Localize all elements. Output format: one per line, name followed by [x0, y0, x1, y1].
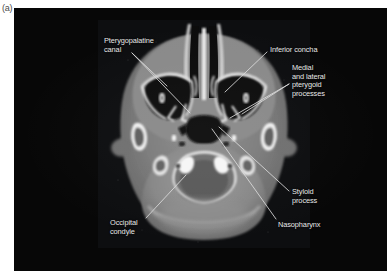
annotation-label-inferior-concha: Inferior concha — [270, 46, 317, 55]
annotation-label-styloid-process: Styloidprocess — [292, 188, 317, 205]
annotation-label-line: condyle — [110, 228, 137, 237]
annotation-label-nasopharynx: Nasopharynx — [278, 221, 320, 230]
annotation-label-medial-and-lateral-pterygoid-processes: Medialand lateralpterygoidprocesses — [292, 64, 325, 98]
annotation-label-line: canal — [104, 46, 154, 55]
annotation-label-line: processes — [292, 90, 325, 99]
annotation-label-occipital-condyle: Occipitalcondyle — [110, 219, 137, 236]
figure-panel-label: (a) — [2, 3, 12, 13]
ct-figure-panel: PterygopalatinecanalInferior conchaMedia… — [14, 8, 387, 271]
annotation-label-line: Nasopharynx — [278, 221, 320, 230]
annotation-label-line: process — [292, 197, 317, 206]
annotation-label-line: Inferior concha — [270, 46, 317, 55]
annotation-label-pterygopalatine-canal: Pterygopalatinecanal — [104, 37, 154, 54]
